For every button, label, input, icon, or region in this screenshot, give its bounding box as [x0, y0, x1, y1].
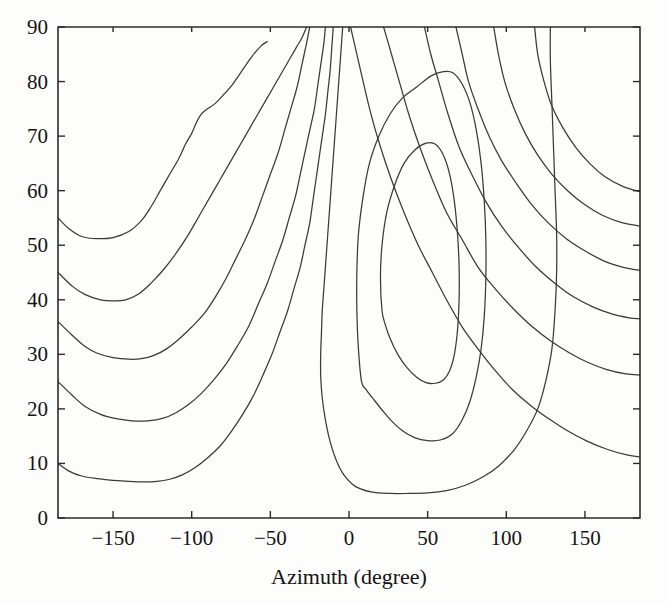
x-tick-label: −100: [170, 526, 213, 550]
y-tick-label: 20: [27, 397, 48, 421]
contour-line: [321, 27, 557, 494]
y-tick-label: 60: [27, 179, 48, 203]
contour-line: [58, 27, 325, 421]
x-tick-marks-group: [113, 27, 585, 518]
x-tick-label: 0: [344, 526, 355, 550]
x-axis-title: Azimuth (degree): [271, 564, 427, 589]
x-tick-label: 50: [417, 526, 438, 550]
contour-line: [58, 42, 267, 239]
axis-frame: [58, 27, 640, 518]
contour-line: [58, 27, 310, 359]
y-tick-label: 0: [38, 506, 49, 530]
y-tick-label: 80: [27, 70, 48, 94]
contour-line: [58, 27, 307, 301]
x-tick-labels-group: −150−100−50050100150: [91, 526, 600, 550]
y-tick-label: 50: [27, 233, 48, 257]
contour-line: [456, 27, 640, 270]
contour-line: [357, 71, 486, 441]
y-tick-label: 70: [27, 124, 48, 148]
y-tick-label: 10: [27, 451, 48, 475]
contour-line: [494, 27, 640, 226]
y-tick-marks-group: [58, 27, 640, 518]
y-tick-label: 90: [27, 15, 48, 39]
axis-box-group: [58, 27, 640, 518]
contour-lines-group: [58, 27, 640, 494]
contour-figure: −150−100−50050100150 0102030405060708090…: [0, 0, 668, 604]
x-tick-label: 100: [491, 526, 523, 550]
y-tick-label: 40: [27, 288, 48, 312]
contour-line: [384, 27, 640, 375]
contour-plot-svg: −150−100−50050100150 0102030405060708090…: [0, 0, 668, 604]
contour-line: [351, 27, 640, 457]
y-tick-labels-group: 0102030405060708090: [27, 15, 48, 530]
x-tick-label: 150: [569, 526, 601, 550]
contour-line: [380, 143, 459, 384]
contour-line: [425, 27, 641, 319]
x-tick-label: −50: [254, 526, 287, 550]
y-tick-label: 30: [27, 342, 48, 366]
x-tick-label: −150: [91, 526, 134, 550]
